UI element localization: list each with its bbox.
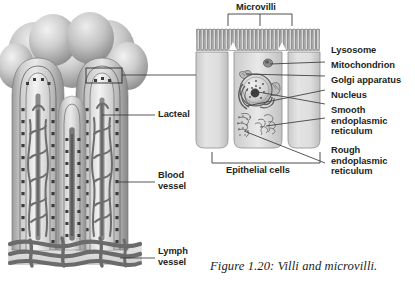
- figure-villi-microvilli: Microvilli Lacteal Blood vessel Lymph ve…: [0, 0, 415, 281]
- label-mitochondrion: Mitochondrion: [331, 60, 395, 71]
- epithelial-cell-detail: [196, 14, 320, 163]
- label-microvilli: Microvilli: [236, 2, 276, 13]
- nucleus-organelle: [240, 74, 272, 106]
- epithelial-cell-left: [196, 52, 228, 148]
- label-epithelial-cells: Epithelial cells: [226, 165, 290, 176]
- epithelial-cells-bracket: [212, 152, 320, 163]
- label-nucleus: Nucleus: [331, 90, 367, 101]
- label-golgi-apparatus: Golgi apparatus: [331, 75, 401, 86]
- label-rough-er: Rough endoplasmic reticulum: [331, 145, 387, 177]
- villus-left-sectioned: [12, 58, 64, 250]
- villi-illustration: [0, 12, 148, 266]
- nucleolus: [251, 89, 260, 98]
- villus-foreground-middle: [58, 96, 86, 250]
- label-lysosome: Lysosome: [331, 45, 376, 56]
- label-blood-vessel: Blood vessel: [158, 170, 186, 191]
- microvilli-row: [196, 29, 320, 51]
- label-smooth-er: Smooth endoplasmic reticulum: [331, 105, 387, 137]
- label-lacteal: Lacteal: [158, 109, 190, 120]
- figure-artwork: [0, 0, 415, 281]
- label-lymph-vessel: Lymph vessel: [158, 246, 188, 267]
- microvilli-bracket: [228, 14, 292, 26]
- figure-caption: Figure 1.20: Villi and microvilli.: [210, 259, 377, 274]
